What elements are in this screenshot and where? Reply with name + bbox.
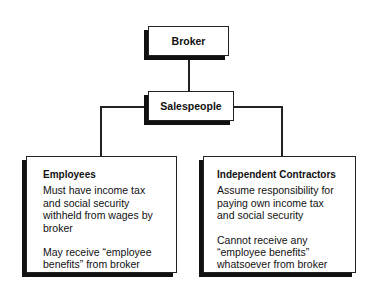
contractors-title: Independent Contractors xyxy=(217,169,355,181)
contractors-para-1: Assume responsibility for paying own inc… xyxy=(217,184,337,221)
contractors-node: Independent Contractors Assume responsib… xyxy=(203,156,356,273)
employees-title: Employees xyxy=(43,169,176,181)
employees-para-1: Must have income tax and social security… xyxy=(43,184,153,234)
employees-para-2: May receive “employee benefits” from bro… xyxy=(43,246,168,271)
salespeople-node: Salespeople xyxy=(148,91,234,121)
connector-salespeople-left xyxy=(100,106,148,108)
connector-left-down xyxy=(100,106,102,156)
connector-salespeople-right xyxy=(234,106,282,108)
connector-right-down xyxy=(281,106,283,156)
employees-node: Employees Must have income tax and socia… xyxy=(26,156,177,273)
contractors-para-2: Cannot receive any “employee benefits” w… xyxy=(217,234,342,271)
broker-label: Broker xyxy=(172,35,206,47)
connector-broker-salespeople xyxy=(188,56,190,91)
broker-node: Broker xyxy=(148,26,229,56)
salespeople-label: Salespeople xyxy=(160,100,221,112)
